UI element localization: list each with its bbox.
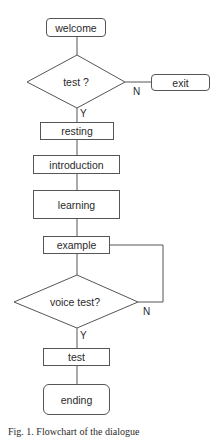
test-label: test — [68, 351, 85, 363]
resting-node: resting — [40, 122, 114, 140]
introduction-label: introduction — [49, 159, 103, 171]
voice-no-label: N — [143, 306, 150, 317]
test-node: test — [43, 348, 110, 366]
figure-caption: Fig. 1. Flowchart of the dialogue — [8, 426, 139, 437]
exit-label: exit — [172, 77, 188, 89]
ending-label: ending — [61, 394, 93, 406]
example-node: example — [43, 236, 110, 254]
test-decision-label: test ? — [63, 76, 89, 88]
learning-node: learning — [33, 190, 120, 219]
example-label: example — [57, 239, 97, 251]
ending-node: ending — [43, 384, 110, 415]
resting-label: resting — [61, 125, 93, 137]
voice-yes-label: Y — [80, 330, 87, 341]
welcome-node: welcome — [46, 18, 106, 37]
introduction-node: introduction — [33, 155, 120, 174]
voice-test-decision-label: voice test? — [50, 296, 100, 308]
test-no-label: N — [133, 86, 140, 97]
welcome-label: welcome — [55, 22, 96, 34]
test-yes-label: Y — [80, 108, 87, 119]
exit-node: exit — [151, 74, 210, 91]
learning-label: learning — [58, 199, 95, 211]
